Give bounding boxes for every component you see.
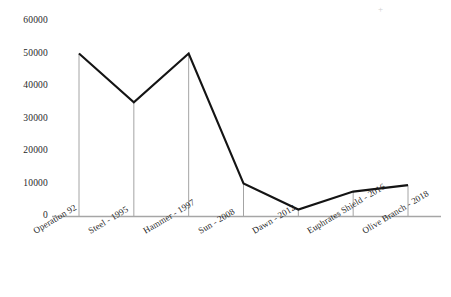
line-chart: 0100002000030000400005000060000 Operatio… xyxy=(0,0,451,297)
scan-artifact-icon: + xyxy=(378,5,383,14)
plot-area xyxy=(0,0,451,297)
